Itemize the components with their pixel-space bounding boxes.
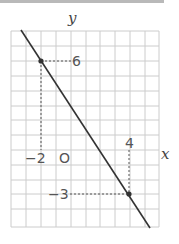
- origin-label: O: [59, 150, 70, 166]
- tick-label-x4: 4: [125, 135, 134, 151]
- x-axis-label: x: [161, 145, 170, 163]
- y-axis-label: y: [67, 9, 77, 27]
- tick-label-y6: 6: [72, 53, 81, 69]
- point-neg2-6: [38, 58, 43, 63]
- point-4-neg3: [126, 191, 131, 196]
- tick-label-x-neg2: −2: [25, 150, 46, 166]
- coordinate-diagram: y x 6 −2 O 4 −3: [0, 0, 179, 244]
- tick-label-y-neg3: −3: [48, 186, 69, 202]
